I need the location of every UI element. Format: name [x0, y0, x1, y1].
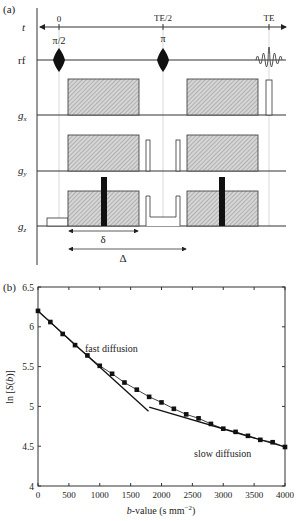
y-tick-label: 6 [29, 322, 34, 332]
rf-row-label: rf [18, 54, 26, 66]
x-tick-label: 3500 [245, 490, 264, 500]
x-tick-label: 3000 [214, 490, 233, 500]
gz-slice-rephase [47, 218, 68, 226]
gx-diffusion-gradient-1 [68, 79, 139, 115]
data-point-marker [135, 387, 140, 392]
x-axis-ticks: 05001000150020002500300035004000 [36, 287, 295, 500]
y-tick-label: 4 [29, 482, 34, 492]
y-tick-label: 4.5 [22, 442, 34, 452]
gz-slice-select-1 [101, 177, 107, 226]
x-tick-label: 2000 [153, 490, 172, 500]
slow-diffusion-annotation: slow diffusion [194, 448, 251, 459]
x-tick-label: 0 [36, 490, 41, 500]
data-point-marker [172, 406, 177, 411]
time-te-label: TE [264, 13, 275, 23]
series-line-2 [149, 407, 285, 447]
gy-row-label: gy [18, 164, 28, 178]
gz-row-label: gz [18, 220, 27, 234]
excitation-pulse-icon [53, 48, 65, 72]
time-te-half-label: TE/2 [154, 13, 172, 23]
data-point-marker [122, 380, 127, 385]
data-point-marker [110, 371, 115, 376]
gy-crusher-left [146, 140, 150, 171]
time-zero-label: 0 [57, 14, 62, 24]
data-point-marker [196, 416, 201, 421]
x-tick-label: 1500 [122, 490, 141, 500]
gy-crusher-right [176, 140, 180, 171]
gx-diffusion-gradient-2 [187, 79, 258, 115]
fast-diffusion-annotation: fast diffusion [85, 343, 138, 354]
refocus-pulse-label: π [160, 33, 165, 44]
x-axis-title: b-value (s mm−2) [127, 504, 196, 517]
excitation-pulse-label: π/2 [53, 35, 66, 46]
plot-series [36, 309, 288, 450]
gz-slice-select-2 [219, 177, 225, 226]
y-tick-label: 6.5 [22, 283, 34, 293]
gx-readout-gradient [266, 80, 272, 115]
figure: (a) t 0 TE/2 TE rf π/2 π gx gy [0, 0, 300, 521]
x-tick-label: 4000 [276, 490, 295, 500]
x-tick-label: 1000 [91, 490, 110, 500]
panel-a-label: (a) [3, 3, 16, 16]
data-point-marker [147, 395, 152, 400]
y-axis-ticks: 44.555.566.5 [22, 283, 285, 492]
data-point-marker [159, 400, 164, 405]
gy-diffusion-gradient-1 [68, 135, 139, 171]
x-tick-label: 2500 [183, 490, 202, 500]
diffusion-decay-chart: (b) 44.555.566.5 05001000150020002500300… [3, 281, 295, 517]
y-tick-label: 5 [29, 402, 34, 412]
delta-small-label: δ [100, 233, 105, 245]
t-row-label: t [22, 21, 26, 33]
y-tick-label: 5.5 [22, 362, 34, 372]
data-point-marker [184, 412, 189, 417]
refocus-pulse-icon [157, 48, 169, 72]
y-axis-title: ln [S(b)] [4, 370, 16, 404]
pulse-sequence-diagram: (a) t 0 TE/2 TE rf π/2 π gx gy [3, 3, 286, 265]
x-tick-label: 500 [62, 490, 76, 500]
gx-row-label: gx [18, 109, 28, 123]
delta-big-label: Δ [119, 252, 126, 264]
series-line-1 [38, 311, 149, 411]
gy-diffusion-gradient-2 [187, 135, 258, 171]
panel-b-label: (b) [3, 281, 16, 294]
series-line-0 [38, 311, 285, 447]
